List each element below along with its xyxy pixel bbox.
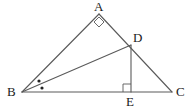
vertex-label-A: A <box>94 0 103 13</box>
segment-BA <box>22 14 99 92</box>
vertex-label-B: B <box>7 85 16 98</box>
triangle-edges <box>22 14 172 92</box>
cevian-and-altitude <box>22 45 131 92</box>
segment-BD <box>22 45 131 92</box>
geometry-canvas <box>0 0 194 112</box>
segment-AC <box>99 14 172 92</box>
right-angle-square-glyph <box>123 84 131 92</box>
angle-bisector-dot-upper <box>37 79 40 82</box>
angle-bisector-dot-lower <box>40 86 43 89</box>
right-angle-mark-E <box>123 84 131 92</box>
vertex-label-C: C <box>176 85 185 98</box>
vertex-label-E: E <box>126 95 134 108</box>
vertex-label-D: D <box>133 31 142 44</box>
geometry-figure: A B C D E <box>0 0 194 112</box>
